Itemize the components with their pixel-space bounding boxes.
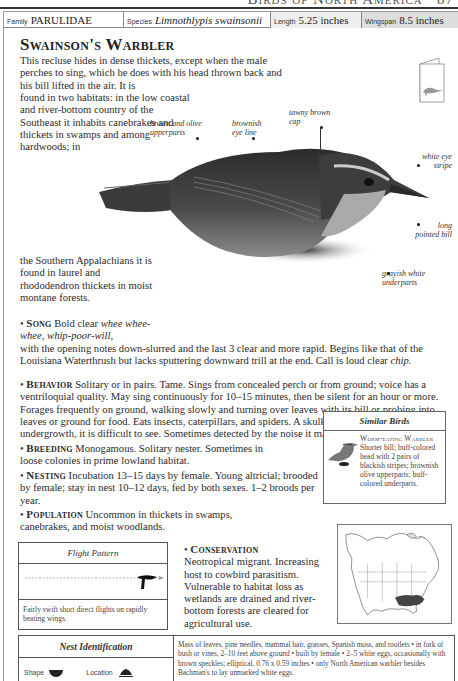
range-map [337,524,452,624]
similar-bird-name: Worm-eating Warbler [360,434,444,443]
section-population: • Population Uncommon in thickets in swa… [20,508,275,534]
annotation-dot-eye-stripe [417,164,420,167]
wingspan-value: 8.5 inches [399,14,444,26]
wingspan-cell: Wingspan 8.5 inches [362,12,458,28]
nesting-heading: Nesting [26,469,66,481]
intro-paragraph-1: This recluse hides in dense thickets, ex… [20,55,290,92]
annotation-dot-underparts [387,272,390,275]
annotation-dot-upperparts [196,137,199,140]
worm-eating-warbler-image [326,436,360,470]
conservation-heading: Conservation [190,543,258,555]
flight-pattern-header: Flight Pattern [19,543,167,564]
annotation-eye-line: brownish eye line [232,119,272,137]
annotation-upperparts: brown and olive upperparts [150,119,212,137]
annotation-dot-bill [417,223,420,226]
family-cell: Family PARULIDAE [4,12,124,28]
similar-bird-description: Worm-eating Warbler Shorter bill; buff-c… [360,434,444,488]
species-page: Family PARULIDAE Species Limnothlypis sw… [3,11,458,681]
nest-shape-label: Shape [24,669,44,676]
nest-identification-header: Nest Identification [19,636,173,658]
similar-birds-box: Similar Birds Worm-eating Warbler Shorte… [323,411,446,504]
nest-identification-box: Nest Identification Shape Location Mass … [18,635,455,681]
species-value: Limnothlypis swainsonii [155,14,262,26]
family-value: PARULIDAE [31,14,92,26]
species-title: Swainson's Warbler [20,35,175,55]
length-label: Length [274,18,295,25]
annotation-eye-stripe: white eye stripe [412,152,452,170]
running-head: Birds of North America 87 [0,0,458,10]
annotation-underparts: grayish white underparts [382,269,442,287]
nest-identification-description: Mass of leaves, pine needles, mammal hai… [174,636,454,681]
behavior-heading: Behavior [26,378,72,390]
population-heading: Population [26,508,83,520]
family-label: Family [7,18,28,25]
species-cell: Species Limnothlypis swainsonii [124,12,271,28]
length-value: 5.25 inches [298,14,348,26]
intro-paragraph-3: the Southern Appalachians it is found in… [20,255,160,304]
annotation-dot-eye-line [252,137,255,140]
cup-nest-icon [48,668,64,678]
flight-pattern-box: Flight Pattern Fairly swift short direct… [18,542,168,630]
shrub-location-icon [118,667,134,679]
section-nesting: • Nesting Incubation 13–15 days by femal… [20,469,320,507]
section-breeding: • Breeding Monogamous. Solitary nester. … [20,442,275,468]
section-song: • Song Bold clear whee whee-whee, whip-p… [20,317,450,367]
flight-pattern-diagram [19,564,167,600]
annotation-leader-cap [320,127,321,149]
similar-birds-header: Similar Birds [324,412,445,431]
breeding-heading: Breeding [26,442,72,454]
annotation-cap: tawny brown cap [289,108,331,126]
fact-bar: Family PARULIDAE Species Limnothlypis sw… [4,12,458,28]
running-head-rule [0,7,458,9]
section-conservation: • Conservation Neotropical migrant. Incr… [184,543,334,630]
nest-identification-left: Nest Identification Shape Location [19,636,174,681]
wingspan-label: Wingspan [365,18,396,25]
field-guide-book-icon [417,56,447,104]
nest-shape-location-row: Shape Location [19,658,173,681]
species-label: Species [127,18,152,25]
length-cell: Length 5.25 inches [271,12,362,28]
flight-pattern-description: Fairly swift short direct flights on rap… [19,600,167,628]
song-heading: Song [26,317,51,329]
nest-location-label: Location [86,669,112,676]
flight-path-icon [19,564,167,600]
bird-photo [99,122,429,262]
